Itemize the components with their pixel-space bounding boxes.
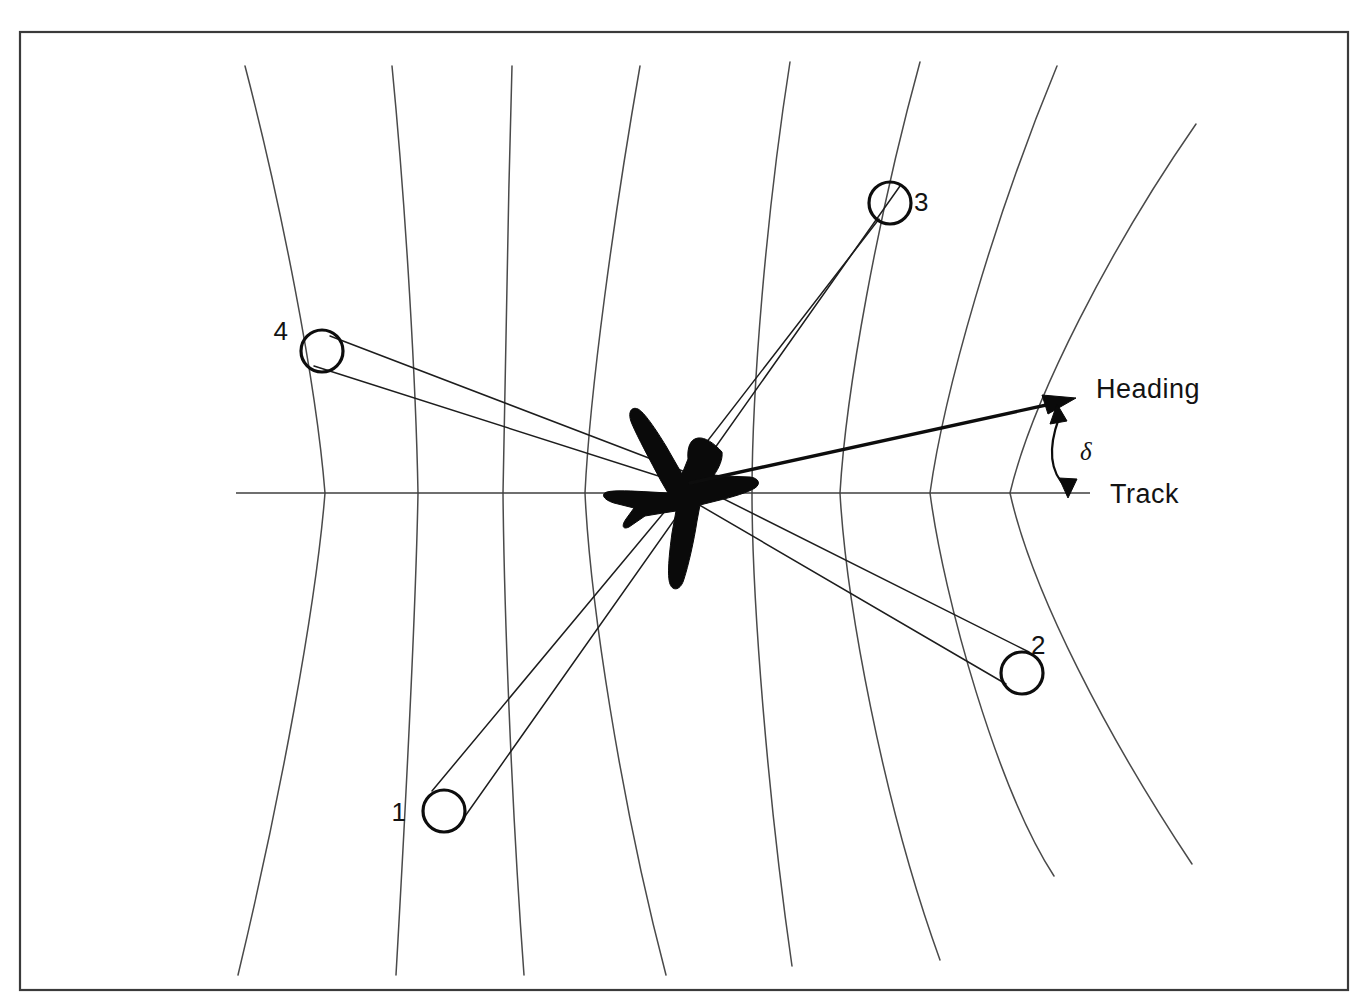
beam-label-1: 1 bbox=[392, 797, 406, 827]
beam-1 bbox=[432, 486, 694, 829]
beam-3-edge-a bbox=[693, 186, 900, 479]
heading-vector bbox=[690, 395, 1076, 483]
beam-spot-4[interactable] bbox=[301, 330, 343, 372]
iso-doppler-curve-1 bbox=[238, 66, 325, 975]
beam-label-3: 3 bbox=[914, 187, 928, 217]
beam-4-edge-a bbox=[330, 336, 688, 473]
iso-doppler-curve-7 bbox=[930, 66, 1057, 876]
doppler-beam-geometry-figure: 1 2 3 4 Heading Track δ bbox=[0, 0, 1369, 1007]
beam-1-edge-b bbox=[456, 492, 694, 829]
iso-doppler-curve-2 bbox=[392, 66, 418, 975]
aircraft-silhouette bbox=[603, 408, 758, 589]
beam-label-4: 4 bbox=[274, 316, 288, 346]
diagram-page: 1 2 3 4 Heading Track δ bbox=[0, 0, 1369, 1007]
drift-angle-indicator bbox=[1050, 404, 1077, 498]
beam-1-edge-a bbox=[432, 486, 686, 791]
beam-2 bbox=[684, 482, 1029, 684]
beam-2-edge-a bbox=[690, 482, 1029, 652]
beam-2-edge-b bbox=[684, 496, 1006, 684]
iso-doppler-curve-group-right bbox=[752, 62, 1196, 966]
iso-doppler-curve-3 bbox=[503, 66, 524, 975]
heading-axis-line bbox=[690, 402, 1060, 483]
track-label: Track bbox=[1110, 479, 1179, 509]
iso-doppler-curve-5 bbox=[752, 62, 792, 966]
drift-angle-symbol-label: δ bbox=[1080, 438, 1092, 465]
iso-doppler-curve-group-left bbox=[238, 66, 666, 975]
aircraft-body-shape bbox=[603, 408, 758, 589]
beam-spot-3[interactable] bbox=[869, 182, 911, 224]
beam-spot-1[interactable] bbox=[423, 790, 465, 832]
beam-3-edge-b bbox=[682, 219, 879, 474]
beam-3 bbox=[682, 186, 900, 479]
beam-label-2: 2 bbox=[1031, 630, 1045, 660]
drift-angle-arc bbox=[1052, 418, 1066, 487]
drift-angle-arrowhead-bottom bbox=[1059, 478, 1077, 498]
heading-label: Heading bbox=[1096, 374, 1200, 404]
